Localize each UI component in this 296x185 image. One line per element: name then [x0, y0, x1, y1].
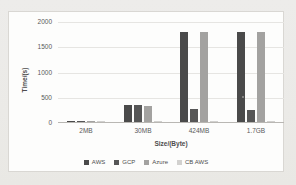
- bar-gcp-30mb: [134, 105, 142, 122]
- legend-marker-aws: [84, 160, 89, 165]
- photo-dust-speck: [242, 96, 244, 98]
- bar-gcp-424mb: [190, 109, 198, 122]
- bar-aws-1.7gb: [237, 32, 245, 122]
- bar-aws-424mb: [180, 32, 188, 122]
- plot-area: [58, 22, 284, 123]
- x-tick-label-424mb: 424MB: [177, 127, 221, 135]
- x-axis-ticks: 2MB30MB424MB1.7GB: [58, 127, 284, 136]
- gridline-500: [58, 98, 284, 99]
- bar-cb-aws-1.7gb: [267, 121, 275, 122]
- bar-chart: Time/(s) 0500100015002000 2MB30MB424MB1.…: [8, 11, 284, 172]
- legend-item-aws: AWS: [84, 159, 105, 166]
- bar-gcp-2mb: [77, 121, 85, 122]
- bar-azure-2mb: [87, 121, 95, 122]
- legend-label-cb-aws: CB AWS: [185, 159, 208, 166]
- legend-label-gcp: GCP: [122, 159, 135, 166]
- bar-azure-1.7gb: [257, 32, 265, 122]
- x-tick-label-30mb: 30MB: [121, 127, 165, 135]
- legend-label-azure: Azure: [152, 159, 168, 166]
- bar-gcp-1.7gb: [247, 110, 255, 122]
- x-axis-title: Size/(Byte): [58, 140, 284, 148]
- legend-marker-gcp: [114, 160, 119, 165]
- x-tick-label-2mb: 2MB: [64, 127, 108, 135]
- legend-label-aws: AWS: [92, 159, 105, 166]
- bar-aws-2mb: [67, 121, 75, 122]
- y-axis-ticks: 0500100015002000: [9, 22, 55, 123]
- document-page-background: Time/(s) 0500100015002000 2MB30MB424MB1.…: [0, 0, 296, 185]
- y-tick-label-500: 500: [41, 94, 52, 102]
- gridline-1000: [58, 73, 284, 74]
- bar-cb-aws-424mb: [210, 121, 218, 122]
- legend-marker-azure: [144, 160, 149, 165]
- bar-azure-30mb: [144, 106, 152, 122]
- legend-item-gcp: GCP: [114, 159, 135, 166]
- bar-cb-aws-30mb: [154, 121, 162, 122]
- legend-item-azure: Azure: [144, 159, 168, 166]
- y-tick-label-0: 0: [48, 119, 52, 127]
- legend-item-cb-aws: CB AWS: [177, 159, 208, 166]
- bar-cb-aws-2mb: [97, 121, 105, 122]
- y-tick-label-1500: 1500: [38, 43, 52, 51]
- y-tick-label-1000: 1000: [38, 69, 52, 77]
- legend-marker-cb-aws: [177, 160, 182, 165]
- bar-azure-424mb: [200, 32, 208, 122]
- gridline-2000: [58, 22, 284, 23]
- y-tick-label-2000: 2000: [38, 18, 52, 26]
- legend: AWSGCPAzureCB AWS: [9, 157, 283, 167]
- x-tick-label-1.7gb: 1.7GB: [234, 127, 278, 135]
- bar-aws-30mb: [124, 105, 132, 122]
- gridline-1500: [58, 47, 284, 48]
